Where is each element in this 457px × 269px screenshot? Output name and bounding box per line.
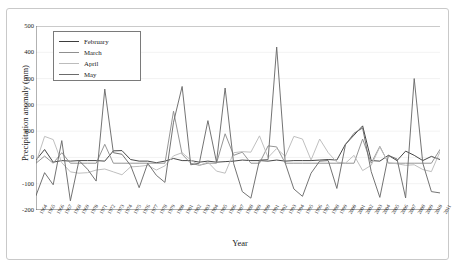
legend-item-label: April [84, 60, 98, 68]
y-axis-tick-label: 0 [12, 154, 34, 160]
legend-item-label: March [84, 49, 102, 57]
legend-item: May [59, 69, 135, 80]
legend-item: April [59, 58, 135, 69]
legend-color-swatch [59, 63, 79, 64]
legend-color-swatch [59, 52, 79, 53]
series-line-april [36, 136, 440, 175]
chart-legend: FebruaryMarchAprilMay [53, 31, 141, 81]
y-axis-tick-label: -200 [12, 207, 34, 213]
y-axis-tick-label: -100 [12, 181, 34, 187]
x-axis-tick-labels: 1964196519661967196819691970197119721973… [36, 212, 440, 238]
y-axis-tick-label: 100 [12, 128, 34, 134]
legend-item-label: May [84, 71, 96, 79]
legend-color-swatch [59, 74, 79, 75]
y-axis-tick-label: 500 [12, 23, 34, 29]
legend-color-swatch [59, 41, 79, 42]
legend-item: March [59, 47, 135, 58]
y-axis-tick-label: 400 [12, 49, 34, 55]
x-axis-title: Year [30, 238, 450, 248]
y-axis-tick-labels: -200-1000100200300400500 [10, 26, 34, 210]
legend-item-label: February [84, 38, 109, 46]
y-axis-tick-label: 300 [12, 76, 34, 82]
legend-item: February [59, 36, 135, 47]
y-axis-tick-label: 200 [12, 102, 34, 108]
chart-figure: Precipitation anomaly (mm) -200-10001002… [0, 0, 457, 269]
